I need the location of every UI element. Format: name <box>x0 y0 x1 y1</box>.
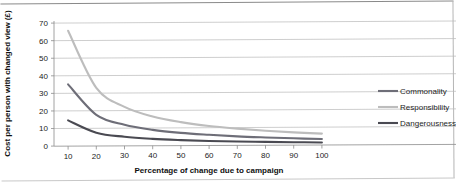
chart-figure: 010203040506070102030405060708090100Perc… <box>0 0 456 185</box>
y-tick-label: 70 <box>39 19 48 28</box>
gridline <box>54 74 456 76</box>
gridline <box>54 56 456 58</box>
x-tick-label: 90 <box>289 151 298 160</box>
y-tick-label: 10 <box>39 124 48 133</box>
y-tick-label: 30 <box>39 89 48 98</box>
y-tick-label: 40 <box>39 72 48 81</box>
legend-label-dangerousness: Dangerousness <box>400 119 456 128</box>
gridline <box>54 21 456 23</box>
gridline <box>54 39 456 41</box>
x-tick-label: 70 <box>233 151 242 160</box>
y-tick-label: 50 <box>39 54 48 63</box>
x-axis-line <box>54 144 456 146</box>
x-tick-label: 30 <box>120 151 129 160</box>
gridline <box>54 126 456 128</box>
line-chart: 010203040506070102030405060708090100Perc… <box>0 0 456 185</box>
x-tick-label: 60 <box>205 151 214 160</box>
x-tick-label: 100 <box>315 151 329 160</box>
x-tick-label: 20 <box>92 152 101 161</box>
x-tick-label: 40 <box>148 151 157 160</box>
y-axis-title: Cost per person with changed view (£) <box>3 10 12 157</box>
x-tick-label: 80 <box>261 151 270 160</box>
y-tick-label: 0 <box>44 142 49 151</box>
series-line-responsibility <box>68 31 322 134</box>
x-tick-label: 10 <box>64 152 73 161</box>
x-tick-label: 50 <box>176 151 185 160</box>
gridline <box>54 109 456 111</box>
legend-label-responsibility: Responsibility <box>400 103 449 112</box>
x-axis-title: Percentage of change due to campaign <box>135 166 284 175</box>
y-tick-label: 20 <box>39 107 48 116</box>
y-tick-label: 60 <box>39 37 48 46</box>
legend-label-commonality: Commonality <box>400 87 447 96</box>
